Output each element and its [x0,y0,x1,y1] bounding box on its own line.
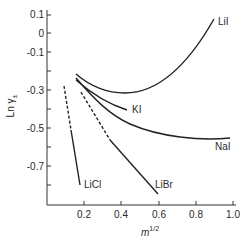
x-tick-label: 0.2 [77,209,91,220]
x-tick-label: 0.6 [152,209,166,220]
y-axis-title: Ln γ± [5,94,18,117]
series-nai-line [76,78,230,139]
series-licl-dashed-line [64,86,71,130]
y-tick-label: -0.7 [27,161,45,172]
series-label-lii: LiI [218,16,229,27]
series-label-libr: LiBr [155,179,173,190]
series-lii-line [76,19,214,93]
y-tick-label: -0.5 [27,123,45,134]
x-tick-label: 0.8 [189,209,203,220]
y-tick-label: -0.3 [27,85,45,96]
series-licl-line [71,130,80,185]
series-libr-line [110,140,158,194]
svg-text:Ln γ±: Ln γ± [5,94,18,117]
series-label-licl: LiCl [84,179,101,190]
svg-text:m1/2: m1/2 [141,225,159,238]
chart-svg: 0.1 0 -0.1 -0.3 -0.5 -0.7 0.2 0.4 0.6 0.… [0,0,244,240]
series-label-nai: NaI [215,141,231,152]
y-tick-label: 0 [38,28,44,39]
x-axis-title: m1/2 [141,225,159,238]
x-tick-label: 0.4 [114,209,128,220]
y-tick-label: 0.1 [30,9,44,20]
activity-coefficient-chart: 0.1 0 -0.1 -0.3 -0.5 -0.7 0.2 0.4 0.6 0.… [0,0,244,240]
series-label-ki: KI [132,104,141,115]
x-tick-label: 1.0 [226,209,240,220]
x-ticks [84,201,233,205]
y-tick-label: -0.1 [27,47,45,58]
y-ticks [47,15,51,185]
